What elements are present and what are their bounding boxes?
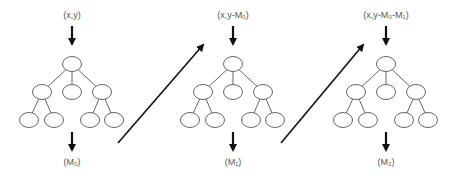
tree-node bbox=[334, 113, 353, 128]
stage-1-input-label: (x,y-M₀) bbox=[217, 10, 249, 20]
tree-node bbox=[407, 85, 426, 100]
tree-node bbox=[45, 113, 64, 128]
tree-node bbox=[377, 57, 396, 72]
tree-node bbox=[194, 85, 213, 100]
tree-node bbox=[81, 113, 100, 128]
tree-node bbox=[377, 85, 396, 100]
tree-node bbox=[224, 85, 243, 100]
tree-node bbox=[224, 57, 243, 72]
stage-2-output-label: (M₂) bbox=[378, 157, 395, 167]
tree-node bbox=[105, 113, 124, 128]
tree-node bbox=[242, 113, 261, 128]
tree-node bbox=[33, 85, 52, 100]
tree-node bbox=[93, 85, 112, 100]
stage-1-output-label: (M₁) bbox=[225, 157, 242, 167]
transition-arrow-1 bbox=[118, 45, 203, 143]
tree-node bbox=[395, 113, 414, 128]
boosting-diagram bbox=[0, 0, 461, 182]
tree-node bbox=[359, 113, 378, 128]
tree-node bbox=[254, 85, 273, 100]
tree-node bbox=[63, 85, 82, 100]
tree-node bbox=[181, 113, 200, 128]
stage-0-output-label: (M₀) bbox=[63, 157, 80, 167]
stage-0-input-label: (x,y) bbox=[63, 10, 81, 20]
tree-node bbox=[20, 113, 39, 128]
tree-node bbox=[63, 57, 82, 72]
tree-node bbox=[206, 113, 225, 128]
stage-2-input-label: (x,y-M₀-M₁) bbox=[363, 10, 408, 20]
tree-node bbox=[266, 113, 285, 128]
tree-node bbox=[419, 113, 438, 128]
tree-node bbox=[347, 85, 366, 100]
